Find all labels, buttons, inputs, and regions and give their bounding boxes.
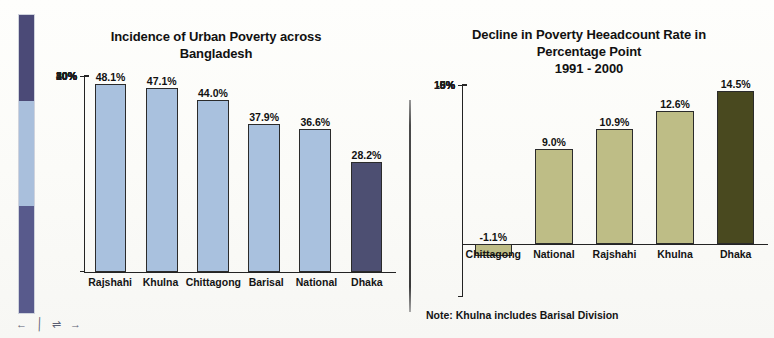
- x-label-barisal: Barisal: [241, 276, 291, 288]
- bar-value-khulna: 47.1%: [147, 75, 177, 87]
- bar-slot-chittagong[interactable]: -1.1%: [463, 85, 524, 297]
- chart-title-right-line-2: Percentage Point: [424, 43, 754, 60]
- bar-rajshahi[interactable]: 10.9%: [596, 129, 634, 245]
- x-label-dhaka: Dhaka: [705, 248, 766, 260]
- x-label-khulna: Khulna: [645, 248, 706, 260]
- chart-title-left-line-1: Incidence of Urban Poverty across: [66, 28, 366, 45]
- bar-barisal[interactable]: 37.9%: [248, 124, 280, 273]
- x-label-rajshahi: Rajshahi: [85, 276, 135, 288]
- bar-slot-national[interactable]: 9.0%: [524, 85, 585, 297]
- bar-slot-national[interactable]: 36.6%: [290, 76, 341, 272]
- chart-note-right: Note: Khulna includes Barisal Division: [426, 309, 768, 321]
- bar-khulna[interactable]: 12.6%: [656, 111, 694, 245]
- bar-khulna[interactable]: 47.1%: [146, 88, 178, 273]
- bar-slot-dhaka[interactable]: 28.2%: [341, 76, 392, 272]
- bar-chittagong[interactable]: 44.0%: [197, 100, 229, 272]
- x-label-dhaka: Dhaka: [342, 276, 392, 288]
- bar-national[interactable]: 9.0%: [535, 149, 573, 244]
- bar-value-national: 36.6%: [300, 116, 330, 128]
- bar-value-chittagong: 44.0%: [198, 87, 228, 99]
- bar-slot-rajshahi[interactable]: 10.9%: [584, 85, 645, 297]
- chart-title-right: Decline in Poverty Heeadcount Rate in Pe…: [424, 26, 754, 77]
- bar-value-dhaka: 28.2%: [352, 149, 382, 161]
- bar-national[interactable]: 36.6%: [299, 129, 331, 272]
- bar-value-dhaka: 14.5%: [721, 78, 751, 90]
- x-label-national: National: [291, 276, 341, 288]
- y-tick-15%: 15%: [434, 79, 462, 91]
- bar-value-barisal: 37.9%: [249, 111, 279, 123]
- bar-series-right: -1.1%9.0%10.9%12.6%14.5%: [463, 85, 766, 297]
- chart-title-left-line-2: Bangladesh: [66, 45, 366, 62]
- x-label-chittagong: Chittagong: [186, 276, 241, 288]
- chart-title-right-line-3: 1991 - 2000: [424, 60, 754, 77]
- x-label-chittagong: Chittagong: [463, 248, 524, 260]
- bar-slot-khulna[interactable]: 12.6%: [645, 85, 706, 297]
- vertical-color-key: [18, 14, 35, 314]
- bar-slot-khulna[interactable]: 47.1%: [136, 76, 187, 272]
- x-label-national: National: [524, 248, 585, 260]
- chart-poverty-headcount-decline: Decline in Poverty Heeadcount Rate in Pe…: [418, 22, 768, 322]
- bar-value-rajshahi: 48.1%: [96, 71, 126, 83]
- bar-value-rajshahi: 10.9%: [600, 116, 630, 128]
- bar-slot-rajshahi[interactable]: 48.1%: [85, 76, 136, 272]
- bar-slot-barisal[interactable]: 37.9%: [239, 76, 290, 272]
- color-key-segment-2: [19, 206, 34, 313]
- x-label-khulna: Khulna: [135, 276, 185, 288]
- plot-area-right: -5%0%5%10%15% -1.1%9.0%10.9%12.6%14.5% C…: [418, 85, 768, 297]
- x-axis-left: [84, 272, 396, 273]
- legend-marker-0-icon: ←: [16, 319, 27, 330]
- bar-value-chittagong: -1.1%: [480, 231, 507, 243]
- chart-urban-poverty: Incidence of Urban Poverty across Bangla…: [44, 22, 396, 322]
- scanned-slide-page: ←╱⇌→ Incidence of Urban Poverty across B…: [0, 0, 774, 338]
- bar-dhaka[interactable]: 28.2%: [351, 162, 383, 273]
- bar-rajshahi[interactable]: 48.1%: [95, 84, 127, 273]
- bar-slot-chittagong[interactable]: 44.0%: [187, 76, 238, 272]
- bar-value-national: 9.0%: [542, 136, 566, 148]
- y-tick-50%: 50%: [56, 70, 84, 82]
- x-tick-labels-right: ChittagongNationalRajshahiKhulnaDhaka: [463, 248, 766, 260]
- bar-series-left: 48.1%47.1%44.0%37.9%36.6%28.2%: [85, 76, 392, 272]
- x-label-rajshahi: Rajshahi: [584, 248, 645, 260]
- color-key-segment-1: [19, 101, 34, 205]
- bar-value-khulna: 12.6%: [660, 98, 690, 110]
- bar-slot-dhaka[interactable]: 14.5%: [705, 85, 766, 297]
- color-key-segment-0: [19, 15, 34, 101]
- plot-area-left: 0%10%20%30%40%50% 48.1%47.1%44.0%37.9%36…: [44, 76, 396, 272]
- chart-title-right-line-1: Decline in Poverty Heeadcount Rate in: [424, 26, 754, 43]
- bar-dhaka[interactable]: 14.5%: [717, 91, 755, 245]
- chart-divider: [409, 100, 411, 312]
- chart-title-left: Incidence of Urban Poverty across Bangla…: [66, 28, 366, 62]
- x-tick-labels-left: RajshahiKhulnaChittagongBarisalNationalD…: [85, 276, 392, 288]
